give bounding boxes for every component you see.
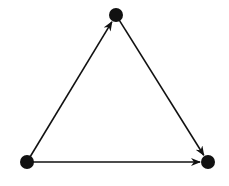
directed-graph-diagram xyxy=(0,0,229,186)
nodes-layer xyxy=(20,8,215,169)
edge-bottom-left-to-top xyxy=(28,22,112,160)
node-bottom-right xyxy=(201,155,215,169)
edge-top-to-bottom-right xyxy=(117,17,204,156)
graph-canvas xyxy=(0,0,229,186)
edges-layer xyxy=(28,17,204,162)
node-bottom-left xyxy=(20,155,34,169)
node-top xyxy=(109,8,123,22)
